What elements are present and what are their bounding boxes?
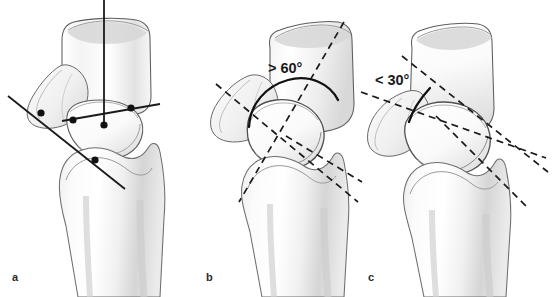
radius-articular-point	[91, 156, 98, 163]
panel-c-illustration	[361, 23, 548, 297]
panel-a-illustration	[8, 0, 165, 297]
panel-label-b: b	[206, 272, 213, 283]
lunate-dorsal-horn-point	[127, 104, 134, 111]
angle-annotation-c: < 30°	[375, 73, 409, 88]
panel-label-a: a	[12, 272, 18, 283]
lunate-volar-horn-point	[69, 116, 76, 123]
panel-c-radius	[403, 159, 510, 297]
scaphoid-proximal-pole-point	[37, 109, 44, 116]
panel-a-radius	[59, 143, 165, 297]
angle-annotation-b: > 60°	[268, 61, 302, 76]
lunate-center-point	[100, 121, 107, 128]
anatomical-figure: > 60° < 30° a b c	[0, 0, 558, 297]
panel-b-radius	[241, 153, 348, 297]
panel-label-c: c	[368, 272, 374, 283]
figure-canvas	[0, 0, 558, 297]
